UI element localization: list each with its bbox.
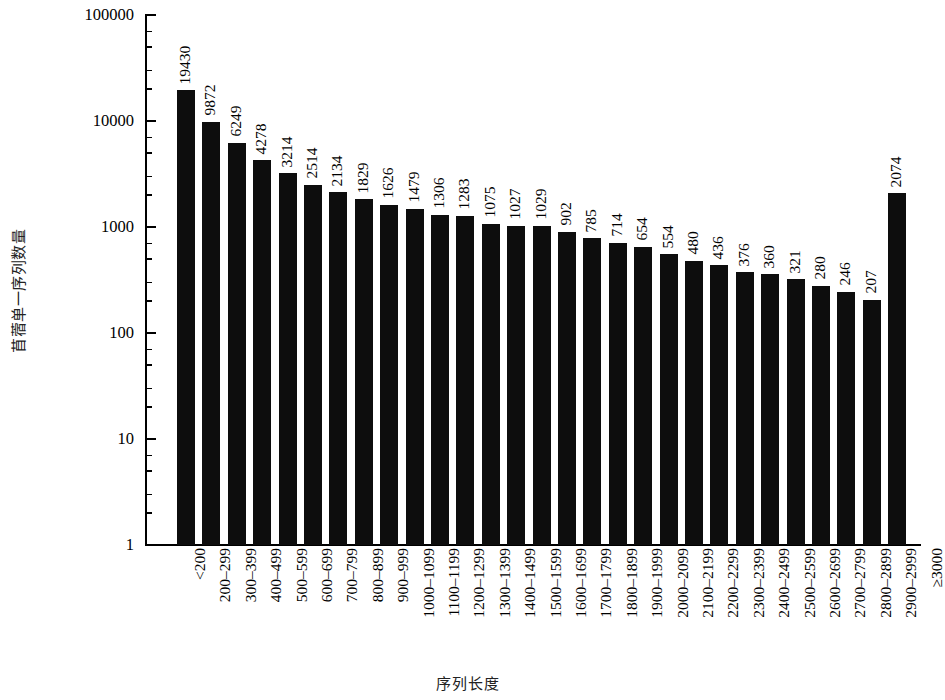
bar-value-label: 19430 <box>177 46 193 85</box>
y-axis-tick-label: 1000 <box>101 219 145 236</box>
bar <box>761 274 779 545</box>
x-axis-tick-labels: <200200–299300–399400–499500–599600–6997… <box>145 548 921 668</box>
x-axis-tick-label: 2000–2099 <box>675 548 691 618</box>
bar-value-label: 902 <box>558 203 574 226</box>
bar-column: 1829 <box>355 15 373 545</box>
x-axis-tick-label: 400–499 <box>268 548 284 602</box>
bar-value-label: 1075 <box>481 187 497 218</box>
bar-value-label: 1306 <box>431 178 447 209</box>
bar-value-label: 1029 <box>532 189 548 220</box>
bar-value-label: 2514 <box>304 148 320 179</box>
x-axis-tick-label: 1900–1999 <box>649 548 665 618</box>
bar <box>355 199 373 545</box>
bar <box>177 90 195 545</box>
x-axis-tick-label: <200 <box>192 548 208 580</box>
bar-column: 1306 <box>431 15 449 545</box>
bar-column: 1479 <box>406 15 424 545</box>
bar-column: 554 <box>660 15 678 545</box>
x-axis-tick-label-text: 2900–2999 <box>903 548 919 618</box>
bar-value-label: 3214 <box>278 136 294 167</box>
bar-value-label: 654 <box>634 217 650 240</box>
bar-column: 1027 <box>507 15 525 545</box>
bar-value-label: 321 <box>786 250 802 273</box>
bar-value-label: 785 <box>583 209 599 232</box>
x-axis-tick-label: 2600–2699 <box>827 548 843 618</box>
x-axis-tick-label-text: 1800–1899 <box>624 548 640 618</box>
x-axis-tick-label: 2700–2799 <box>852 548 868 618</box>
bar-value-label: 2074 <box>888 156 904 187</box>
y-axis-tick-label: 10 <box>118 431 146 448</box>
x-axis-tick-label: 700–799 <box>344 548 360 602</box>
x-axis-tick-label-text: 600–699 <box>319 548 335 602</box>
x-axis-tick-label-text: 1100–1199 <box>446 548 462 617</box>
bar <box>787 279 805 545</box>
bar <box>406 209 424 545</box>
bar-value-label: 1626 <box>380 168 396 199</box>
bar <box>431 215 449 545</box>
x-axis-tick-label-text: 900–999 <box>395 548 411 602</box>
x-axis-tick-label-text: 1900–1999 <box>649 548 665 618</box>
bar-value-label: 2134 <box>329 155 345 186</box>
bar-column: 280 <box>812 15 830 545</box>
x-axis-tick-label: 2500–2599 <box>802 548 818 618</box>
bar <box>482 224 500 545</box>
x-axis-tick-label-text: 2000–2099 <box>675 548 691 618</box>
bar-column: 6249 <box>228 15 246 545</box>
bar-column: 902 <box>558 15 576 545</box>
x-axis-tick-label-text: 800–899 <box>370 548 386 602</box>
bar-column: 360 <box>761 15 779 545</box>
bar <box>736 272 754 545</box>
x-axis-tick-label-text: 2400–2499 <box>776 548 792 618</box>
bar <box>660 254 678 545</box>
bar-column: 376 <box>736 15 754 545</box>
plot-area: 110100100010000100000 194309872624942783… <box>145 15 921 545</box>
y-axis-title: 苜蓿单一序列数量 <box>2 170 32 410</box>
x-axis-tick-label: 1100–1199 <box>446 548 462 617</box>
x-axis-tick-label-text: 1700–1799 <box>598 548 614 618</box>
bar-series: 1943098726249427832142514213418291626147… <box>145 15 921 545</box>
x-axis-tick-label: 2800–2899 <box>878 548 894 618</box>
x-axis-tick-label: 1000–1099 <box>421 548 437 618</box>
x-axis-tick-label: 2400–2499 <box>776 548 792 618</box>
x-axis-tick-label: 200–299 <box>217 548 233 602</box>
x-axis-tick-label: 1200–1299 <box>471 548 487 618</box>
x-axis-tick-label: 2300–2399 <box>751 548 767 618</box>
x-axis-tick-label: 1400–1499 <box>522 548 538 618</box>
bar <box>456 216 474 545</box>
bar-value-label: 1283 <box>456 179 472 210</box>
bar-value-label: 1027 <box>507 189 523 220</box>
bar-column: 436 <box>710 15 728 545</box>
x-axis-tick-label: 2200–2299 <box>725 548 741 618</box>
bar <box>507 226 525 545</box>
x-axis-tick-label-text: 2800–2899 <box>878 548 894 618</box>
bar <box>329 192 347 545</box>
bar-column: 1029 <box>533 15 551 545</box>
y-axis-tick-label: 100 <box>109 325 145 342</box>
x-axis-tick-label: 900–999 <box>395 548 411 602</box>
bar-value-label: 1829 <box>354 162 370 193</box>
x-axis-tick-label-text: 1600–1699 <box>573 548 589 618</box>
bar-column: 1626 <box>380 15 398 545</box>
bar-column: 207 <box>863 15 881 545</box>
x-axis-tick-label-text: 1200–1299 <box>471 548 487 618</box>
bar <box>812 286 830 545</box>
x-axis-tick-label: 800–899 <box>370 548 386 602</box>
bar-value-label: 6249 <box>227 106 243 137</box>
bar <box>558 232 576 545</box>
bar <box>279 173 297 545</box>
x-axis-tick-label-text: 1400–1499 <box>522 548 538 618</box>
x-axis-tick-label-text: <200 <box>192 548 208 580</box>
bar-column: 246 <box>837 15 855 545</box>
bar-value-label: 376 <box>735 243 751 266</box>
bar <box>837 292 855 545</box>
x-axis-tick-label-text: 300–399 <box>243 548 259 602</box>
x-axis-tick-label-text: 200–299 <box>217 548 233 602</box>
bar <box>609 243 627 545</box>
bar-value-label: 714 <box>608 213 624 236</box>
bar-value-label: 436 <box>710 236 726 259</box>
x-axis-tick-label: 2900–2999 <box>903 548 919 618</box>
bar-column: 3214 <box>279 15 297 545</box>
x-axis-tick-label-text: 500–599 <box>294 548 310 602</box>
y-axis-tick-label: 100000 <box>85 7 146 24</box>
